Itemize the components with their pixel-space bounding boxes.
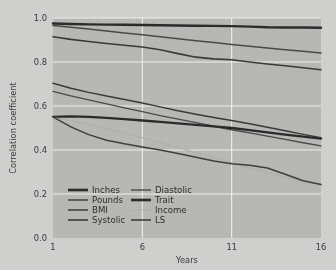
legend-label-bmi: BMI: [92, 205, 108, 215]
y-tick-label: 0.0: [34, 233, 47, 243]
x-tick-label: 11: [226, 242, 237, 252]
x-tick-label: 6: [140, 242, 145, 252]
y-tick-label: 0.6: [34, 101, 47, 111]
x-tick-label: 1: [50, 242, 55, 252]
legend-label-income: Income: [155, 205, 187, 215]
y-tick-label: 0.4: [34, 145, 47, 155]
plot-container: 161116 0.00.20.40.60.81.0 Years Correlat…: [0, 0, 336, 270]
legend-label-inches: Inches: [92, 185, 120, 195]
y-tick-label: 0.2: [34, 189, 47, 199]
legend-label-ls: LS: [155, 215, 165, 225]
y-axis-ticks: 0.00.20.40.60.81.0: [34, 13, 47, 243]
y-tick-label: 1.0: [34, 13, 47, 23]
legend-label-trait: Trait: [154, 195, 174, 205]
y-axis-label: Correlation coefficient: [8, 81, 18, 173]
legend-label-pounds: Pounds: [92, 195, 123, 205]
legend-label-systolic: Systolic: [92, 215, 125, 225]
x-axis-ticks: 161116: [50, 242, 326, 252]
x-axis-label: Years: [175, 255, 198, 265]
legend-label-diastolic: Diastolic: [155, 185, 192, 195]
x-tick-label: 16: [316, 242, 327, 252]
chart-figure: 161116 0.00.20.40.60.81.0 Years Correlat…: [0, 0, 336, 270]
y-tick-label: 0.8: [34, 57, 47, 67]
correlation-line-chart: 161116 0.00.20.40.60.81.0 Years Correlat…: [0, 0, 336, 270]
